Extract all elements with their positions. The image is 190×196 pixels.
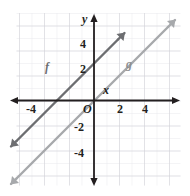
origin-label: O xyxy=(83,103,92,115)
y-axis-label: y xyxy=(82,13,87,25)
y-tick-2: 2 xyxy=(80,63,86,75)
x-tick-minus-4: -4 xyxy=(26,103,36,115)
graph-figure: x y O -4 2 4 4 2 -2 -4 f g xyxy=(0,0,190,196)
x-tick-2: 2 xyxy=(117,103,123,115)
y-tick-minus-4: -4 xyxy=(74,147,84,159)
x-tick-4: 4 xyxy=(142,103,148,115)
curve-label-g: g xyxy=(126,58,132,70)
y-tick-minus-2: -2 xyxy=(74,121,84,133)
curve-label-f: f xyxy=(45,61,49,73)
y-tick-4: 4 xyxy=(80,38,86,50)
coordinate-plane-svg xyxy=(0,0,190,196)
x-axis-label: x xyxy=(103,84,109,96)
